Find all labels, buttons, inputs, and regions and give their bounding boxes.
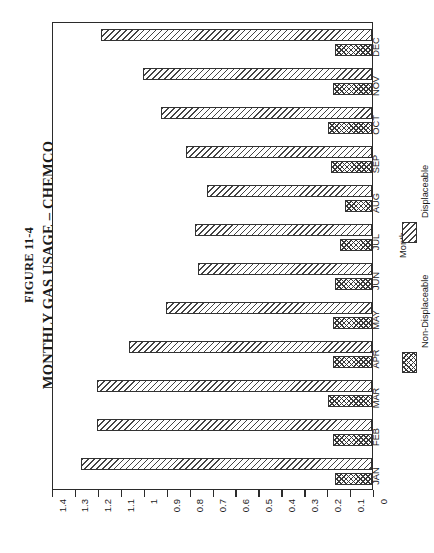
figure-root: FIGURE 11-4 MONTHLY GAS USAGE – CHEMCO 1… bbox=[0, 0, 434, 553]
category-axis-label-nov: NOV bbox=[371, 75, 381, 95]
category-axis-label-aug: AUG bbox=[371, 192, 381, 212]
category-axis-label-apr: APR bbox=[371, 349, 381, 368]
category-axis-label-jun: JUN bbox=[371, 271, 381, 289]
bar-group bbox=[51, 23, 372, 62]
bar-non-displaceable[interactable] bbox=[335, 278, 372, 290]
bar-displaceable[interactable] bbox=[161, 107, 372, 119]
value-axis-tick bbox=[304, 490, 305, 497]
bar-displaceable[interactable] bbox=[101, 29, 372, 41]
value-axis-tick-label: 0 bbox=[378, 499, 389, 504]
category-axis-label-jul: JUL bbox=[371, 233, 381, 250]
category-axis-label-dec: DEC bbox=[371, 37, 381, 57]
category-axis-label-feb: FEB bbox=[371, 427, 381, 445]
value-axis-tick-label: 1 bbox=[148, 499, 159, 504]
bar-group bbox=[51, 335, 372, 374]
value-axis-tick bbox=[350, 490, 351, 497]
bar-group bbox=[51, 62, 372, 101]
bar-displaceable[interactable] bbox=[186, 146, 372, 158]
category-axis-label-jan: JAN bbox=[371, 467, 381, 485]
value-axis: 1.41.31.21.110.90.80.70.60.50.40.30.20.1… bbox=[52, 490, 373, 500]
bar-displaceable[interactable] bbox=[81, 458, 372, 470]
bar-displaceable[interactable] bbox=[97, 419, 372, 431]
bar-group bbox=[51, 140, 372, 179]
bar-non-displaceable[interactable] bbox=[333, 434, 372, 446]
bar-non-displaceable[interactable] bbox=[331, 161, 372, 173]
category-axis-label-oct: OCT bbox=[371, 115, 381, 135]
value-axis-tick-label: 0.1 bbox=[355, 499, 366, 512]
value-axis-tick-label: 0.2 bbox=[332, 499, 343, 512]
value-axis-tick bbox=[167, 490, 168, 497]
bar-group bbox=[51, 413, 372, 452]
value-axis-tick bbox=[327, 490, 328, 497]
bar-group bbox=[51, 218, 372, 257]
legend-swatch-nondisplaceable-icon bbox=[402, 352, 417, 373]
value-axis-tick bbox=[235, 490, 236, 497]
bar-displaceable[interactable] bbox=[166, 302, 372, 314]
bar-non-displaceable[interactable] bbox=[335, 44, 372, 56]
bar-non-displaceable[interactable] bbox=[333, 317, 372, 329]
bar-group bbox=[51, 179, 372, 218]
legend-swatch-displaceable-icon bbox=[402, 222, 417, 243]
bar-non-displaceable[interactable] bbox=[328, 395, 372, 407]
value-axis-tick bbox=[52, 490, 53, 497]
value-axis-tick-label: 0.3 bbox=[309, 499, 320, 512]
category-axis-label-may: MAY bbox=[371, 310, 381, 329]
bar-group bbox=[51, 296, 372, 335]
plot-area bbox=[52, 22, 373, 490]
value-axis-tick-label: 0.7 bbox=[217, 499, 228, 512]
bar-non-displaceable[interactable] bbox=[328, 122, 372, 134]
value-axis-tick bbox=[281, 490, 282, 497]
bar-non-displaceable[interactable] bbox=[335, 473, 372, 485]
bar-displaceable[interactable] bbox=[207, 185, 372, 197]
value-axis-tick bbox=[258, 490, 259, 497]
figure-number: FIGURE 11-4 bbox=[22, 227, 37, 303]
legend-label-displaceable: Displaceable bbox=[420, 165, 430, 218]
value-axis-tick bbox=[190, 490, 191, 497]
bar-displaceable[interactable] bbox=[198, 263, 372, 275]
value-axis-tick bbox=[75, 490, 76, 497]
value-axis-tick bbox=[213, 490, 214, 497]
bar-group bbox=[51, 101, 372, 140]
value-axis-tick-label: 1.2 bbox=[102, 499, 113, 512]
bar-non-displaceable[interactable] bbox=[345, 200, 373, 212]
category-axis-label-sep: SEP bbox=[371, 154, 381, 173]
value-axis-tick-label: 1.4 bbox=[57, 499, 68, 512]
category-axis-label-mar: MAR bbox=[371, 387, 381, 408]
value-axis-tick-label: 0.6 bbox=[240, 499, 251, 512]
legend-label-non-displaceable: Non-Displaceable bbox=[420, 275, 430, 348]
value-axis-tick bbox=[373, 490, 374, 497]
bar-non-displaceable[interactable] bbox=[333, 356, 372, 368]
bar-displaceable[interactable] bbox=[143, 68, 372, 80]
value-axis-tick-label: 0.8 bbox=[194, 499, 205, 512]
bar-displaceable[interactable] bbox=[195, 224, 372, 236]
bar-non-displaceable[interactable] bbox=[340, 239, 372, 251]
bar-group bbox=[51, 374, 372, 413]
value-axis-tick-label: 0.9 bbox=[171, 499, 182, 512]
bar-group bbox=[51, 257, 372, 296]
bar-non-displaceable[interactable] bbox=[333, 83, 372, 95]
value-axis-tick-label: 1.3 bbox=[79, 499, 90, 512]
legend: Non-Displaceable Displaceable bbox=[398, 0, 434, 553]
value-axis-tick bbox=[144, 490, 145, 497]
value-axis-tick-label: 0.5 bbox=[263, 499, 274, 512]
value-axis-tick bbox=[98, 490, 99, 497]
bar-displaceable[interactable] bbox=[129, 341, 372, 353]
value-axis-tick-label: 0.4 bbox=[286, 499, 297, 512]
value-axis-tick-label: 1.1 bbox=[125, 499, 136, 512]
bars-layer bbox=[53, 23, 372, 489]
bar-displaceable[interactable] bbox=[97, 380, 372, 392]
value-axis-tick bbox=[121, 490, 122, 497]
bar-group bbox=[51, 452, 372, 491]
